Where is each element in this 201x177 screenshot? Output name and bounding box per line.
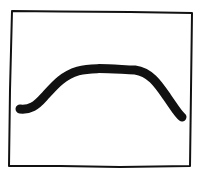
sketch-canvas [0,0,201,177]
arch-curve [20,69,182,117]
sketch-drawing [0,0,201,177]
